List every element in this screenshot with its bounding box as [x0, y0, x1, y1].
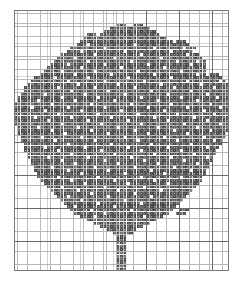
cross-stitch-pattern-canvas: [14, 10, 229, 271]
pattern-chart-frame: [14, 10, 229, 271]
pattern-page: Tree Cross-Stitch Pattern Chart: [0, 0, 237, 283]
